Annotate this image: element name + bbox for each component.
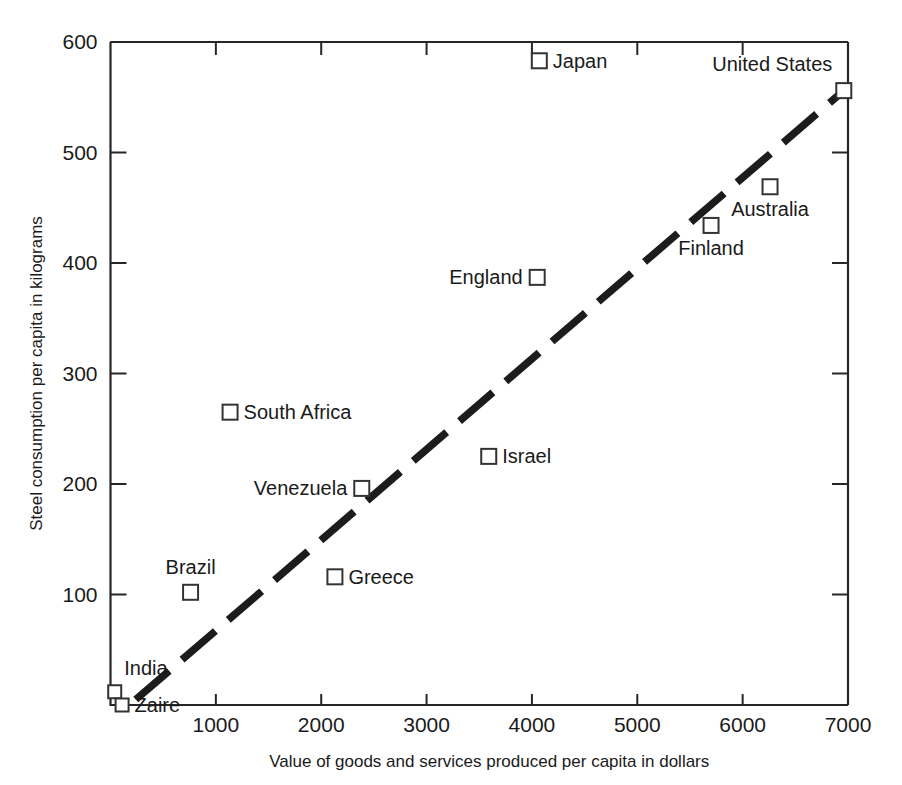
axes-group (111, 42, 849, 705)
point-label-venezuela: Venezuela (254, 477, 348, 499)
y-tick-label-300: 300 (62, 362, 97, 385)
tick-marks-group (111, 42, 849, 705)
point-label-united-states: United States (712, 53, 832, 75)
plot-area: JapanUnited StatesAustraliaFinlandEnglan… (0, 0, 902, 785)
y-tick-label-100: 100 (62, 583, 97, 606)
x-tick-label-1000: 1000 (192, 713, 239, 736)
y-axis-title: Steel consumption per capita in kilogram… (27, 216, 46, 531)
data-points-group: JapanUnited StatesAustraliaFinlandEnglan… (108, 50, 851, 716)
data-point-finland[interactable] (704, 218, 719, 233)
data-point-australia[interactable] (763, 179, 778, 194)
trend-line-group (136, 91, 844, 700)
point-label-england: England (449, 266, 522, 288)
data-point-venezuela[interactable] (354, 481, 369, 496)
tick-labels-group: 1000200030004000500060007000100200300400… (62, 30, 871, 736)
x-tick-label-6000: 6000 (719, 713, 766, 736)
data-point-israel[interactable] (481, 449, 496, 464)
x-tick-label-7000: 7000 (825, 713, 872, 736)
y-tick-label-500: 500 (62, 141, 97, 164)
x-axis-title: Value of goods and services produced per… (269, 752, 709, 771)
x-tick-label-2000: 2000 (298, 713, 345, 736)
y-tick-label-600: 600 (62, 30, 97, 53)
point-label-greece: Greece (348, 566, 414, 588)
x-tick-label-5000: 5000 (614, 713, 661, 736)
point-label-australia: Australia (731, 198, 810, 220)
x-tick-label-3000: 3000 (403, 713, 450, 736)
data-point-zaire[interactable] (116, 699, 129, 712)
y-tick-label-200: 200 (62, 472, 97, 495)
data-point-united-states[interactable] (836, 83, 851, 98)
data-point-south-africa[interactable] (223, 405, 238, 420)
point-label-japan: Japan (553, 50, 608, 72)
point-label-zaire: Zaire (135, 694, 181, 716)
data-point-brazil[interactable] (183, 585, 198, 600)
point-label-israel: Israel (502, 445, 551, 467)
y-tick-label-400: 400 (62, 251, 97, 274)
data-point-greece[interactable] (327, 569, 342, 584)
point-label-finland: Finland (678, 237, 744, 259)
x-tick-label-4000: 4000 (509, 713, 556, 736)
data-point-japan[interactable] (532, 53, 547, 68)
scatter-chart: JapanUnited StatesAustraliaFinlandEnglan… (0, 0, 902, 785)
trend-line (136, 91, 844, 700)
point-label-india: India (124, 657, 168, 679)
point-label-south-africa: South Africa (244, 401, 353, 423)
data-point-england[interactable] (530, 270, 545, 285)
data-point-india[interactable] (108, 685, 121, 698)
point-label-brazil: Brazil (166, 556, 216, 578)
axis-frame (111, 42, 849, 705)
